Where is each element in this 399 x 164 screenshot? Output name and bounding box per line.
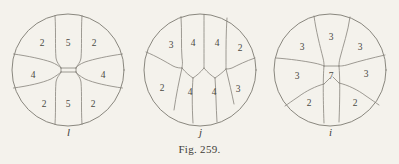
panel-l-labels: 2 5 2 4 4 2 5 2 — [31, 38, 106, 109]
cell-label: 3 — [295, 71, 300, 81]
cell-label: 2 — [42, 99, 47, 109]
panel-l-outline — [12, 14, 124, 126]
cell-label: 2 — [353, 98, 358, 108]
panel-j-outline — [144, 14, 256, 126]
cell-label: 7 — [329, 71, 334, 81]
cell-label: 2 — [40, 38, 45, 48]
panel-label-j: j — [138, 126, 263, 138]
cell-label: 4 — [215, 38, 220, 48]
cell-label: 5 — [66, 38, 71, 48]
panel-label-i: i — [268, 126, 393, 138]
cell-label: 3 — [329, 32, 334, 42]
cell-label: 4 — [101, 70, 106, 80]
cell-label: 3 — [364, 69, 369, 79]
cell-label: 4 — [191, 38, 196, 48]
panel-j-labels: 3 4 4 2 2 4 4 3 — [160, 38, 243, 97]
diagram-panel-l: 2 5 2 4 4 2 5 2 — [6, 6, 131, 128]
diagram-panel-j: 3 4 4 2 2 4 4 3 — [138, 6, 263, 128]
panel-j-cell-walls — [146, 14, 255, 123]
cell-label: 3 — [300, 42, 305, 52]
figure-caption: Fig. 259. — [0, 143, 399, 155]
cell-label: 4 — [212, 87, 217, 97]
cell-label: 2 — [160, 83, 165, 93]
cell-label: 4 — [31, 70, 36, 80]
cell-label: 4 — [188, 87, 193, 97]
cell-label: 5 — [66, 99, 71, 109]
diagram-panel-i: 3 3 3 3 7 3 2 2 — [268, 6, 393, 128]
panel-i-labels: 3 3 3 3 7 3 2 2 — [295, 32, 369, 108]
cell-label: 3 — [169, 40, 174, 50]
cell-label: 3 — [236, 84, 241, 94]
panel-i-outline — [274, 14, 386, 126]
cell-label: 3 — [358, 42, 363, 52]
figure-page: 2 5 2 4 4 2 5 2 l — [0, 0, 399, 164]
cell-label: 2 — [307, 98, 312, 108]
cell-label: 2 — [238, 43, 243, 53]
panel-label-l: l — [6, 126, 131, 138]
cell-label: 2 — [92, 38, 97, 48]
cell-label: 2 — [91, 99, 96, 109]
